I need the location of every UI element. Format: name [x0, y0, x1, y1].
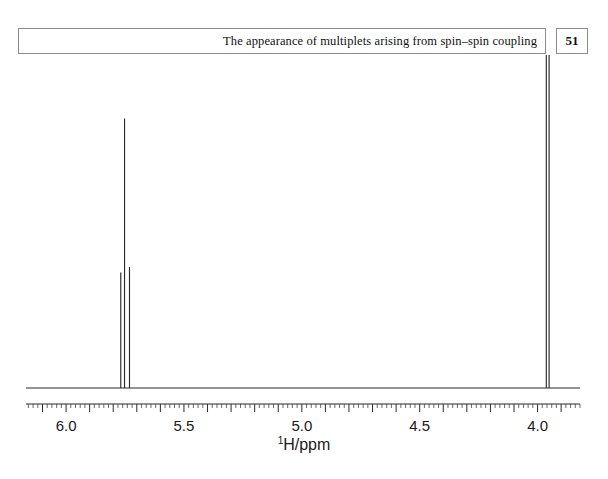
axis-tick-label: 6.0	[56, 417, 77, 434]
axis-tick-marks	[28, 404, 580, 412]
axis-tick-labels: 6.05.55.04.54.0	[56, 417, 548, 434]
running-header-box: The appearance of multiplets arising fro…	[18, 28, 546, 54]
axis-tick-label: 4.0	[527, 417, 548, 434]
axis-tick-label: 4.5	[409, 417, 430, 434]
page-title: The appearance of multiplets arising fro…	[223, 34, 537, 49]
axis-tick-label: 5.0	[291, 417, 312, 434]
axis-unit: H/ppm	[283, 436, 330, 453]
page-number-box: 51	[556, 28, 588, 54]
axis-tick-label: 5.5	[174, 417, 195, 434]
nmr-spectrum-figure: 6.05.55.04.54.0 1H/ppm	[0, 55, 608, 479]
x-axis-label: 1H/ppm	[0, 435, 608, 454]
spectrum-plot-area: 6.05.55.04.54.0	[0, 55, 608, 479]
spectrum-trace	[121, 55, 549, 388]
page-number: 51	[566, 33, 579, 49]
